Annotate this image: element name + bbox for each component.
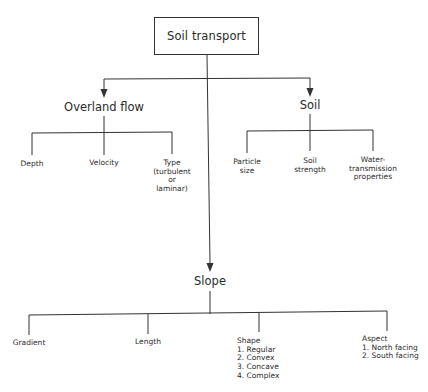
leaf-gradient: Gradient [4,339,54,348]
leaf-soil-strength: Soil strength [285,157,335,174]
leaf-particle-size: Particle size [222,158,272,175]
leaf-length: Length [123,338,173,347]
leaf-type: Type (turbulent or laminar) [147,159,197,194]
leaf-water-transmission-properties: Water- transmission properties [338,156,408,182]
node-overland-flow: Overland flow [64,101,144,114]
leaf-depth: Depth [12,160,52,169]
root-node-soil-transport: Soil transport [154,17,259,55]
node-slope: Slope [190,275,230,288]
leaf-velocity: Velocity [79,159,129,168]
leaf-aspect: Aspect 1. North facing 2. South facing [362,335,428,361]
root-node-label: Soil transport [167,29,246,43]
soil-transport-diagram: Soil transport Overland flow Soil Slope … [0,0,428,392]
leaf-shape: Shape 1. Regular 2. Convex 3. Concave 4.… [237,337,297,380]
node-soil: Soil [290,99,330,112]
